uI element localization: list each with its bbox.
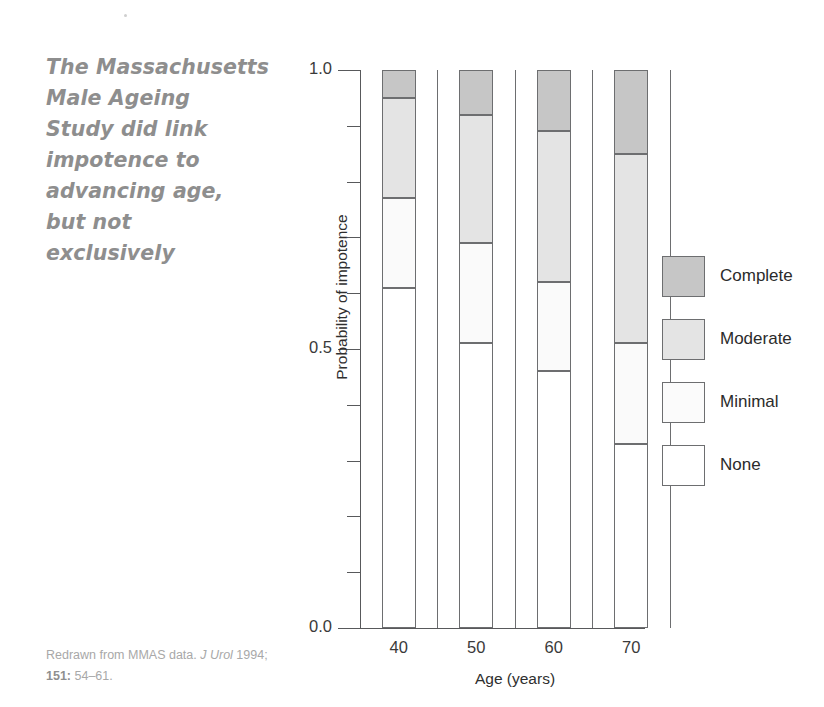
legend-swatch-none: [662, 445, 705, 486]
figure-page: The Massachusetts Male Ageing Study did …: [0, 0, 824, 707]
legend-label: None: [720, 455, 761, 475]
y-axis-minor-tick: [347, 516, 360, 517]
y-axis-tick-label: 1.0: [292, 59, 332, 78]
x-axis-line: [340, 628, 645, 629]
bar-segment-minimal: [537, 282, 571, 371]
pull-quote-line: Male Ageing: [46, 83, 296, 114]
pull-quote-line: but not: [46, 207, 296, 238]
legend-item-minimal: Minimal: [662, 382, 822, 445]
bar-segment-complete: [537, 70, 571, 131]
y-axis-minor-tick: [347, 126, 360, 127]
bar-segment-moderate: [459, 115, 493, 243]
legend-item-none: None: [662, 445, 822, 508]
x-axis-tick-label: 40: [369, 638, 429, 657]
caption-suffix: 1994;: [233, 648, 268, 662]
source-caption: Redrawn from MMAS data. J Urol 1994; 151…: [46, 645, 316, 687]
y-axis-major-tick: [338, 70, 360, 71]
bar-segment-moderate: [537, 131, 571, 282]
legend-label: Complete: [720, 266, 793, 286]
x-axis-separator: [592, 70, 593, 628]
plot-area: [360, 70, 670, 628]
pull-quote: The Massachusetts Male Ageing Study did …: [46, 52, 296, 269]
bar-segment-minimal: [459, 243, 493, 343]
y-axis-title: Probability of impotence: [333, 177, 351, 417]
bar-age-50: [459, 70, 493, 628]
bar-segment-none: [382, 288, 416, 628]
bar-segment-complete: [382, 70, 416, 98]
y-axis-minor-tick: [347, 461, 360, 462]
x-axis-separator: [515, 70, 516, 628]
y-axis-tick-label: 0.5: [292, 338, 332, 357]
legend-swatch-complete: [662, 256, 705, 297]
bar-age-70: [614, 70, 648, 628]
pull-quote-line: advancing age,: [46, 176, 296, 207]
stacked-bar-chart: 0.00.51.0 Probability of impotence 40506…: [300, 52, 720, 672]
y-axis-tick-label: 0.0: [292, 617, 332, 636]
bar-segment-complete: [459, 70, 493, 115]
legend-item-moderate: Moderate: [662, 319, 822, 382]
pull-quote-line: impotence to: [46, 145, 296, 176]
bar-age-60: [537, 70, 571, 628]
legend-item-complete: Complete: [662, 256, 822, 319]
caption-pages: 54–61.: [71, 669, 113, 683]
pull-quote-line: The Massachusetts: [46, 52, 296, 83]
bar-segment-minimal: [614, 343, 648, 443]
chart-legend: CompleteModerateMinimalNone: [662, 256, 822, 508]
x-axis-title: Age (years): [360, 670, 670, 688]
bar-age-40: [382, 70, 416, 628]
caption-journal: J Urol: [200, 648, 233, 662]
bar-segment-moderate: [614, 154, 648, 344]
x-axis-tick-label: 60: [524, 638, 584, 657]
bar-segment-none: [537, 371, 571, 628]
y-axis-major-tick: [338, 628, 360, 629]
caption-line-1: Redrawn from MMAS data. J Urol 1994;: [46, 645, 316, 666]
pull-quote-line: exclusively: [46, 238, 296, 269]
y-axis-minor-tick: [347, 572, 360, 573]
bar-segment-none: [459, 343, 493, 628]
bar-segment-none: [614, 444, 648, 628]
legend-swatch-moderate: [662, 319, 705, 360]
x-axis-tick-label: 70: [601, 638, 661, 657]
legend-swatch-minimal: [662, 382, 705, 423]
bar-segment-complete: [614, 70, 648, 154]
legend-label: Minimal: [720, 392, 779, 412]
caption-volume: 151:: [46, 669, 71, 683]
bar-segment-minimal: [382, 198, 416, 287]
caption-line-2: 151: 54–61.: [46, 666, 316, 687]
pull-quote-line: Study did link: [46, 114, 296, 145]
legend-label: Moderate: [720, 329, 792, 349]
print-speck: [124, 14, 127, 17]
bar-segment-moderate: [382, 98, 416, 198]
x-axis-tick-label: 50: [446, 638, 506, 657]
x-axis-separator: [437, 70, 438, 628]
caption-prefix: Redrawn from MMAS data.: [46, 648, 200, 662]
